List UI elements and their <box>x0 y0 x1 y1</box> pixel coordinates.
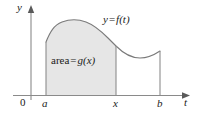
tick-label-a: a <box>42 98 48 109</box>
figure-canvas <box>0 0 200 120</box>
curve-equation-operator: = <box>108 13 116 25</box>
y-axis-label: y <box>17 2 22 13</box>
tick-label-x: x <box>113 98 118 109</box>
area-label-operator: = <box>69 54 77 66</box>
t-axis-label: t <box>184 97 187 108</box>
area-function-figure: y t 0 a x b y=f(t) area=g(x) <box>0 0 200 120</box>
curve-equation-label: y=f(t) <box>103 14 130 25</box>
y-axis-arrowhead <box>28 5 34 13</box>
area-label-lhs: area <box>51 54 69 66</box>
tick-label-b: b <box>157 98 163 109</box>
area-label-rhs: g(x) <box>78 54 96 66</box>
origin-label: 0 <box>20 97 26 108</box>
curve-equation-rhs: f(t) <box>116 13 129 25</box>
area-label: area=g(x) <box>51 55 95 66</box>
